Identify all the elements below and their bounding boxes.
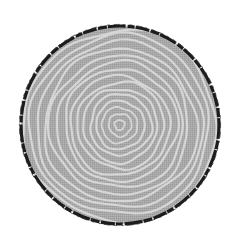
tree-ring-illustration <box>0 0 240 241</box>
tree-stump-cross-section <box>0 0 240 241</box>
